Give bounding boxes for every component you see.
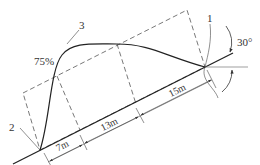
diagram: 7m 13m 15m 1 2 3 75% 30° xyxy=(0,0,260,165)
label-point2: 2 xyxy=(9,121,15,133)
divider-20m xyxy=(117,44,136,104)
profile-curve xyxy=(40,44,205,150)
main-incline-line xyxy=(13,53,233,164)
leader-point2 xyxy=(20,128,40,150)
divider-7m xyxy=(57,76,80,130)
schematic-svg: 7m 13m 15m 1 2 3 75% 30° xyxy=(0,0,260,165)
label-point1: 1 xyxy=(207,12,213,24)
dim-tick-start xyxy=(44,153,52,165)
dim-label-7m: 7m xyxy=(54,137,71,153)
dim-label-13m: 13m xyxy=(99,115,120,133)
dim-tick-end xyxy=(207,70,216,88)
label-angle: 30° xyxy=(237,36,252,48)
label-point3: 3 xyxy=(79,19,85,31)
label-percent: 75% xyxy=(34,55,54,67)
angle-arc-upper xyxy=(226,26,232,52)
leader-point3 xyxy=(67,30,79,44)
dim-label-15m: 15m xyxy=(167,81,188,99)
dim-tick-20m xyxy=(136,108,144,123)
angle-arc-lower xyxy=(222,70,232,92)
